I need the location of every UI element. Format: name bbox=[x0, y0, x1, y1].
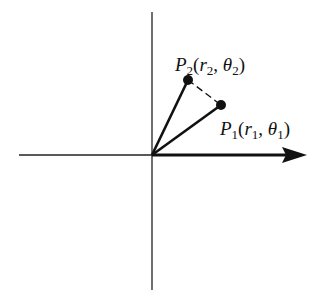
distance-segment bbox=[188, 80, 221, 105]
point-p1 bbox=[216, 100, 226, 110]
radius-line-p1 bbox=[152, 105, 221, 155]
polar-diagram: P2(r2, θ2) P1(r1, θ1) bbox=[0, 0, 332, 297]
radius-line-p2 bbox=[152, 80, 188, 155]
label-p2: P2(r2, θ2) bbox=[174, 54, 245, 78]
label-p1: P1(r1, θ1) bbox=[219, 118, 290, 142]
